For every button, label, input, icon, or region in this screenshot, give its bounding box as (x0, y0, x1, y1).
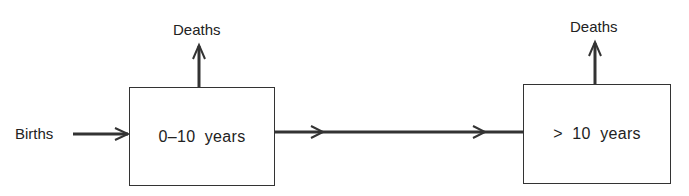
births-label: Births (15, 125, 53, 142)
age-group-young-label: 0–10 years (159, 128, 246, 146)
age-group-old-label: > 10 years (553, 125, 641, 143)
deaths-label-young: Deaths (173, 21, 221, 38)
age-group-old-box: > 10 years (523, 84, 671, 184)
deaths-label-old: Deaths (570, 18, 618, 35)
age-group-young-box: 0–10 years (129, 87, 275, 186)
